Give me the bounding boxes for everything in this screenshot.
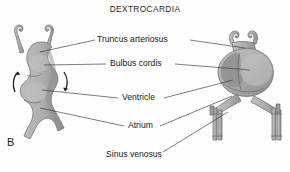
dextrocardia-figure: DEXTROCARDIA xyxy=(0,0,290,172)
left-bulbus-highlight xyxy=(29,54,49,72)
label-truncus-arteriosus: Truncus arteriosus xyxy=(97,34,168,44)
figure-title: DEXTROCARDIA xyxy=(110,4,181,14)
left-heart-tube: B xyxy=(7,25,68,148)
right-looped-heart xyxy=(210,31,282,140)
leader-ventricle-right xyxy=(164,80,233,98)
leader-ventricle-left xyxy=(42,90,118,98)
rotation-arrow-left xyxy=(13,72,20,92)
right-ventricle-lobe xyxy=(240,54,272,86)
label-ventricle: Ventricle xyxy=(122,92,155,102)
left-ventricle-highlight xyxy=(25,82,47,102)
label-atrium: Atrium xyxy=(128,120,153,130)
left-tube-arch-vessel-left xyxy=(15,25,24,53)
label-sinus-venosus: Sinus venosus xyxy=(106,149,162,159)
sinus-venosus-right-trunks xyxy=(271,104,282,140)
sinus-venosus-left-trunks xyxy=(210,106,223,140)
panel-label: B xyxy=(7,136,14,148)
anatomical-diagram: DEXTROCARDIA xyxy=(0,0,290,172)
label-bulbus-cordis: Bulbus cordis xyxy=(110,58,162,68)
rotation-arrow-right xyxy=(63,72,68,91)
